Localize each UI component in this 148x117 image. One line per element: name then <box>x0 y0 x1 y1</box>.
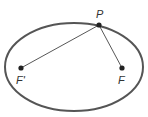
label-f: F <box>118 74 126 86</box>
point-p <box>96 22 101 27</box>
segment-p-f <box>99 25 122 68</box>
label-p: P <box>96 8 104 20</box>
point-fprime <box>18 65 23 70</box>
ellipse-diagram: P F' F <box>0 0 148 117</box>
label-fprime: F' <box>16 74 26 86</box>
point-f <box>119 65 124 70</box>
